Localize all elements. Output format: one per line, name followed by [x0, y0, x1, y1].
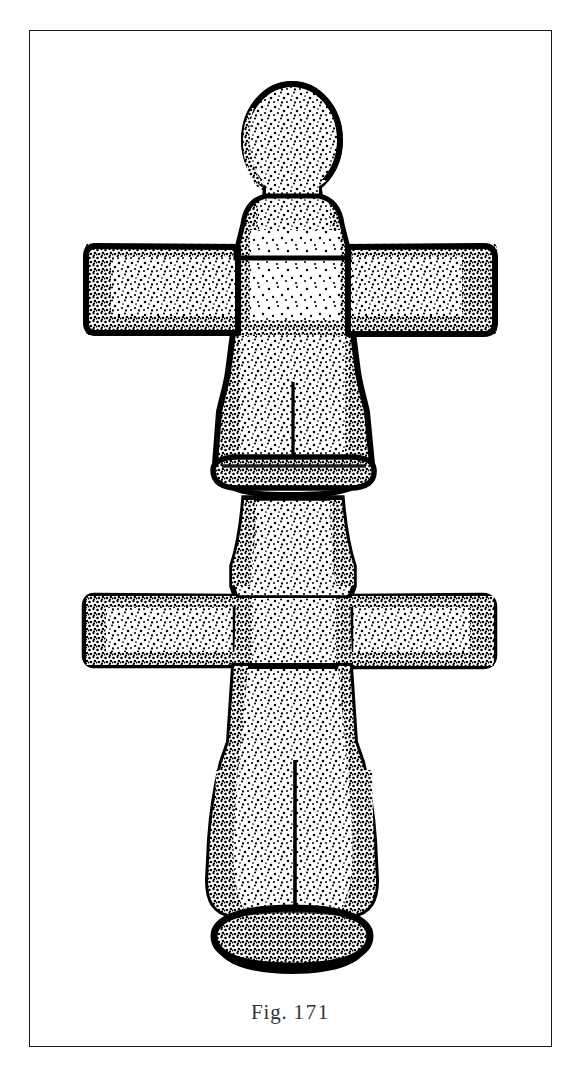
plate-frame: [29, 30, 552, 1047]
figure-caption: Fig. 171: [29, 1000, 552, 1025]
figure-caption-prefix: Fig.: [251, 1000, 287, 1024]
page-canvas: Fig. 171: [0, 0, 585, 1073]
figure-caption-number: 171: [294, 1000, 330, 1024]
